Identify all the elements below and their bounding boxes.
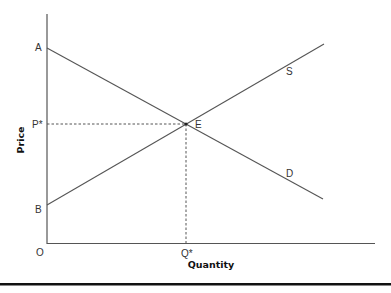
bottom-rule [0, 283, 391, 286]
y-axis-title: Price [15, 127, 26, 154]
label-d: D [286, 168, 293, 179]
x-axis-title: Quantity [188, 259, 235, 270]
label-s: S [286, 66, 293, 77]
supply-demand-diagram: A B P* O Q* E S D Price Quantity [0, 0, 391, 293]
equilibrium-point [184, 122, 187, 125]
label-e: E [195, 119, 202, 130]
label-b: B [35, 204, 42, 215]
label-a: A [35, 42, 42, 53]
label-origin: O [36, 247, 44, 258]
label-p-star: P* [32, 119, 43, 130]
label-q-star: Q* [181, 248, 193, 259]
